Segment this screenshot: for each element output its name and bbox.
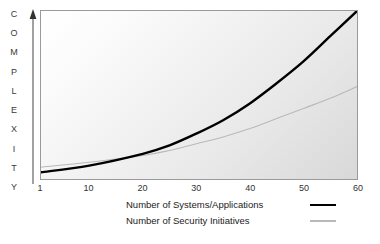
y-axis-letter: M — [10, 48, 18, 57]
y-axis-letter: E — [11, 106, 17, 115]
y-axis-letter: Y — [11, 183, 17, 192]
legend-item-systems-applications: Number of Systems/Applications — [126, 197, 336, 213]
complexity-chart-figure: C O M P L E X I T Y 1102030405060 Number… — [0, 0, 380, 244]
x-axis-tick-label: 1 — [37, 183, 42, 194]
legend-label: Number of Systems/Applications — [126, 199, 263, 211]
legend-label: Number of Security Initiatives — [126, 215, 250, 227]
x-axis-tick-label: 30 — [191, 183, 201, 194]
series-line — [41, 87, 357, 168]
y-axis-letter: O — [10, 29, 17, 38]
x-axis-tick-label: 50 — [299, 183, 309, 194]
x-axis-tick-label: 20 — [137, 183, 147, 194]
y-axis-letter: L — [11, 87, 16, 96]
x-axis-tick-label: 40 — [245, 183, 255, 194]
y-axis-letter: X — [11, 125, 17, 134]
series-line — [41, 11, 357, 172]
y-axis-letter: P — [11, 68, 17, 77]
legend-item-security-initiatives: Number of Security Initiatives — [126, 213, 336, 229]
y-axis-label-complexity: C O M P L E X I T Y — [5, 10, 23, 192]
x-axis-tick-label: 10 — [83, 183, 93, 194]
y-axis-arrow-icon — [28, 8, 38, 186]
y-axis-letter: T — [11, 164, 17, 173]
plot-area — [40, 10, 358, 180]
x-axis-tick-labels: 1102030405060 — [40, 183, 358, 197]
y-axis-letter: I — [13, 145, 16, 154]
legend-swatch-security-initiatives — [310, 220, 336, 221]
legend-swatch-systems-applications — [310, 204, 336, 207]
x-axis-tick-label: 60 — [353, 183, 363, 194]
y-axis-letter: C — [11, 10, 18, 19]
plot-canvas — [41, 11, 357, 179]
chart-legend: Number of Systems/Applications Number of… — [126, 197, 336, 229]
